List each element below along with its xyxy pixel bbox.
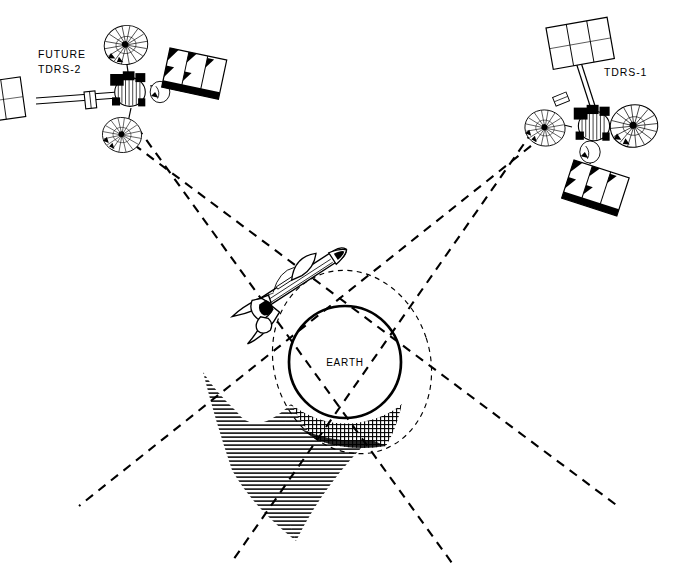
tdrs2-omni-boom — [84, 91, 97, 109]
beam-tdrs2-upper — [121, 135, 619, 507]
earth-label: EARTH — [326, 357, 364, 368]
tdrs1-dish-left — [522, 107, 568, 149]
tdrs2-dish-upper — [101, 21, 152, 68]
tdrs1-label: TDRS-1 — [604, 66, 647, 78]
tdrs2-label-line2: TDRS-2 — [38, 63, 81, 75]
tdrs2-spacecraft-bus — [110, 71, 145, 106]
satellite-tdrs-2: FUTURE TDRS-2 — [0, 21, 227, 155]
tdrs1-omni-boom — [553, 92, 570, 106]
tdrs1-spacecraft-bus — [574, 105, 610, 141]
satellite-tdrs-1: TDRS-1 — [522, 17, 661, 216]
tdrs2-label-line1: FUTURE — [38, 48, 86, 60]
tdrs2-dish-lower — [100, 115, 144, 155]
tdrs2-solar-panel-right — [162, 48, 227, 99]
tdrs1-solar-panel-top — [546, 17, 614, 69]
tdrs2-solar-panel-left — [0, 77, 26, 125]
diagram-canvas: EARTH — [0, 0, 681, 570]
tdrs1-dish-right — [607, 102, 660, 151]
tdrs1-solar-panel-bottom — [562, 160, 630, 216]
tdrss-coverage-diagram: EARTH — [0, 0, 681, 570]
tdrs1-horn-antenna — [580, 141, 600, 163]
